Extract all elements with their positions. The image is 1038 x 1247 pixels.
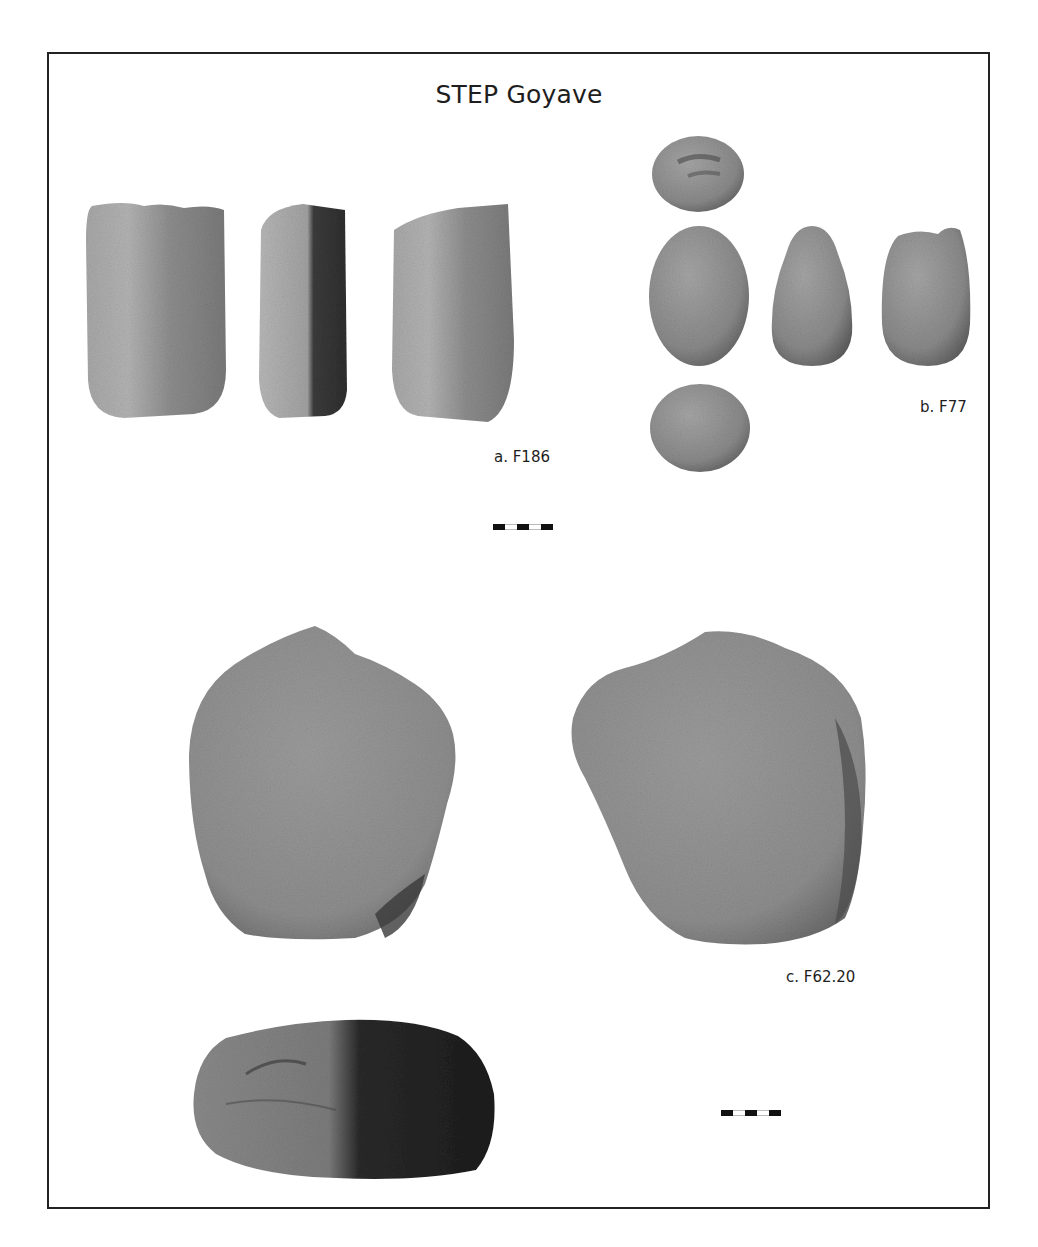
artifact-a-view-side	[255, 200, 351, 422]
scale-segment-black	[493, 524, 505, 530]
artifact-a-view-back	[388, 200, 516, 426]
figure-title: STEP Goyave	[0, 80, 1038, 109]
scale-segment-white	[757, 1110, 769, 1116]
artifact-b-view-back	[878, 224, 973, 369]
artifact-a-view-front	[84, 200, 229, 422]
artifact-a-label: a. F186	[494, 448, 550, 466]
scale-segment-black	[769, 1110, 781, 1116]
artifact-c-view-front	[185, 624, 485, 944]
artifact-c-label: c. F62.20	[786, 968, 855, 986]
scale-segment-white	[505, 524, 517, 530]
artifact-b-view-bottom	[648, 382, 752, 474]
artifact-b-view-top	[648, 134, 748, 214]
scale-bar-upper	[493, 524, 553, 530]
artifact-b-view-front	[647, 224, 751, 369]
scale-segment-white	[529, 524, 541, 530]
artifact-b-view-side	[768, 224, 856, 369]
scale-segment-white	[733, 1110, 745, 1116]
scale-segment-black	[721, 1110, 733, 1116]
artifact-c-view-profile	[186, 1014, 512, 1182]
scale-segment-black	[517, 524, 529, 530]
artifact-c-view-back	[565, 628, 870, 948]
scale-segment-black	[541, 524, 553, 530]
artifact-b-label: b. F77	[920, 398, 967, 416]
scale-segment-black	[745, 1110, 757, 1116]
scale-bar-lower	[721, 1110, 781, 1116]
